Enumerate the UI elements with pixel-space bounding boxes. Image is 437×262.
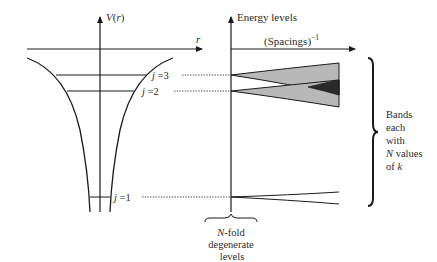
level-label-j3: j =3 <box>150 70 169 81</box>
degenerate-label-line2: degenerate <box>208 239 254 250</box>
degenerate-label-line3: levels <box>220 251 245 262</box>
brace-label-line3: with <box>386 135 405 146</box>
potential-curve-left <box>27 58 90 212</box>
bands-brace <box>368 58 378 206</box>
degenerate-label-line1: N-fold <box>216 227 245 238</box>
potential-well-panel: V(r) r j =3 j =2 j =1 <box>27 11 230 212</box>
energy-axis-label: Energy levels <box>237 11 297 23</box>
v-axis-label: V(r) <box>106 11 125 24</box>
potential-curve-right <box>110 58 173 212</box>
brace-label-line5: of k <box>386 161 402 172</box>
degenerate-brace <box>205 214 257 222</box>
brace-label-line1: Bands <box>386 109 412 120</box>
level-label-j2: j =2 <box>140 86 159 97</box>
spacings-axis-label: (Spacings)−1 <box>264 33 319 48</box>
r-axis-label: r <box>196 33 201 45</box>
brace-label-line2: each <box>386 122 406 133</box>
level-label-j1: j =1 <box>112 192 131 203</box>
energy-bands-panel: Energy levels (Spacings)−1 N-fold degene… <box>205 11 422 262</box>
energy-band-diagram: V(r) r j =3 j =2 j =1 Energy levels (Spa… <box>0 0 437 262</box>
band-j1 <box>231 192 339 204</box>
brace-label-line4: N values <box>385 148 422 159</box>
